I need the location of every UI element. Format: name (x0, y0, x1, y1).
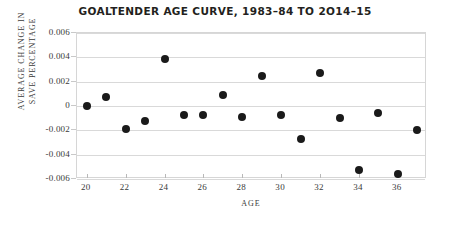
gridline-y (77, 106, 425, 107)
x-axis-tick-label: 32 (304, 182, 334, 192)
y-axis-tick-label: 0.004 (14, 51, 70, 61)
x-axis-tickmark (165, 174, 166, 178)
x-axis-tickmark (281, 174, 282, 178)
gridline-y (77, 57, 425, 58)
x-axis-tick-label: 24 (149, 182, 179, 192)
data-point (161, 55, 169, 63)
data-point (297, 135, 305, 143)
y-axis-title-line-2: SAVE PERCENTAGE (27, 0, 38, 136)
x-axis-tick-label: 26 (187, 182, 217, 192)
y-axis-tick-label: 0 (14, 100, 70, 110)
data-point (83, 102, 91, 110)
data-point (316, 69, 324, 77)
chart-title: GOALTENDER AGE CURVE, 1983–84 TO 2O14–15 (0, 5, 450, 17)
y-axis-tick-label: 0.002 (14, 76, 70, 86)
data-point (122, 125, 130, 133)
y-axis-tick-label: -0.004 (14, 149, 70, 159)
data-point (219, 91, 227, 99)
data-point (394, 170, 402, 178)
plot-area (76, 32, 426, 178)
data-point (413, 126, 421, 134)
gridline-y (77, 33, 425, 34)
x-axis-tick-label: 22 (110, 182, 140, 192)
x-axis-tick-label: 28 (226, 182, 256, 192)
y-axis-tick-label: -0.002 (14, 124, 70, 134)
y-axis-tickmark (71, 178, 76, 179)
data-point (102, 93, 110, 101)
gridline-y (77, 82, 425, 83)
data-point (199, 111, 207, 119)
y-axis-title: AVERAGE CHANGE IN SAVE PERCENTAGE (16, 0, 38, 136)
x-axis-tick-label: 34 (343, 182, 373, 192)
x-axis-tick-label: 36 (382, 182, 412, 192)
x-axis-tickmark (320, 174, 321, 178)
data-point (258, 72, 266, 80)
data-point (238, 113, 246, 121)
data-point (277, 111, 285, 119)
x-axis-tickmark (126, 174, 127, 178)
x-axis-title: AGE (76, 199, 426, 208)
x-axis-tick-label: 20 (71, 182, 101, 192)
gridline-y (77, 179, 425, 180)
data-point (336, 114, 344, 122)
y-axis-title-line-1: AVERAGE CHANGE IN (16, 0, 27, 136)
data-point (374, 109, 382, 117)
x-axis-tickmark (242, 174, 243, 178)
x-axis-tickmark (87, 174, 88, 178)
x-axis-tick-label: 30 (265, 182, 295, 192)
y-axis-tick-label: 0.006 (14, 27, 70, 37)
y-axis-tick-label: -0.006 (14, 173, 70, 183)
data-point (355, 166, 363, 174)
data-point (180, 111, 188, 119)
x-axis-tickmark (203, 174, 204, 178)
chart-figure: GOALTENDER AGE CURVE, 1983–84 TO 2O14–15… (0, 0, 450, 232)
x-axis-tickmark (359, 174, 360, 178)
data-point (141, 117, 149, 125)
gridline-y (77, 155, 425, 156)
